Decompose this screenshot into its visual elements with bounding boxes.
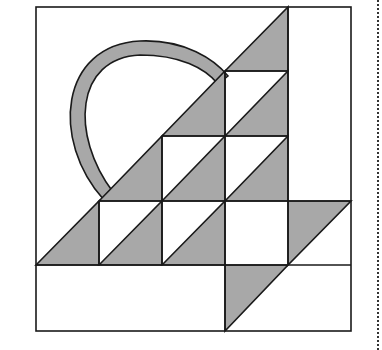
- quilt-block-diagram: [0, 0, 382, 350]
